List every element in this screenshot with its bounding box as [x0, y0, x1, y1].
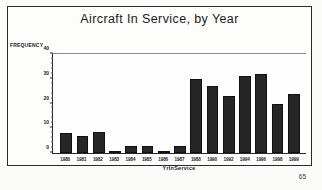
- plot-area: 010203040: [52, 53, 306, 154]
- bar-slot: [91, 54, 107, 153]
- bar: [223, 96, 235, 153]
- x-axis-tick-label: 1981: [73, 157, 89, 162]
- bar-slot: [204, 54, 220, 153]
- x-axis-tick-label: 1984: [122, 157, 138, 162]
- x-axis-tick-label: 1996: [253, 157, 269, 162]
- x-axis-tick-label: 1986: [155, 157, 171, 162]
- bar: [272, 104, 284, 154]
- x-axis-tick-label: 1999: [286, 157, 302, 162]
- x-axis-tick-label: 1994: [237, 157, 253, 162]
- x-axis-title: YrInService: [52, 165, 306, 171]
- bar-slot: [74, 54, 90, 153]
- bar-slot: [139, 54, 155, 153]
- x-axis-tick-label: 1987: [171, 157, 187, 162]
- bar: [239, 76, 251, 153]
- bar-slot: [237, 54, 253, 153]
- bar: [207, 86, 219, 153]
- x-axis-tick-label: 1988: [188, 157, 204, 162]
- x-axis-tick-label: 1992: [220, 157, 236, 162]
- x-axis-tick-label: 1990: [204, 157, 220, 162]
- bar-slot: [269, 54, 285, 153]
- bar: [255, 74, 267, 153]
- bar-slot: [172, 54, 188, 153]
- bar: [190, 79, 202, 153]
- bar-slot: [286, 54, 302, 153]
- x-axis-tick-label: 1998: [269, 157, 285, 162]
- bar: [158, 151, 170, 153]
- bar-slot: [253, 54, 269, 153]
- bar: [93, 132, 105, 153]
- page-number: 65: [299, 173, 306, 180]
- x-axis-tick-label: 1982: [90, 157, 106, 162]
- bar: [109, 151, 121, 153]
- bar: [77, 136, 89, 153]
- figure-frame: Aircraft In Service, by Year FREQUENCY 0…: [7, 6, 312, 166]
- bar-series: [53, 54, 306, 153]
- bar: [288, 94, 300, 153]
- y-axis-label: FREQUENCY: [10, 42, 43, 48]
- chart-title: Aircraft In Service, by Year: [8, 12, 311, 26]
- x-axis-tick-label: 1983: [106, 157, 122, 162]
- bar-slot: [123, 54, 139, 153]
- bar-slot: [156, 54, 172, 153]
- x-axis-tick-labels: 1980198119821983198419851986198719881990…: [52, 157, 306, 162]
- x-axis-tick-label: 1980: [57, 157, 73, 162]
- bar: [142, 146, 154, 153]
- bar: [125, 146, 137, 153]
- bar: [60, 133, 72, 153]
- bar-slot: [107, 54, 123, 153]
- y-axis-tick-label: 40: [43, 45, 53, 51]
- bar-slot: [188, 54, 204, 153]
- scanned-page: Aircraft In Service, by Year FREQUENCY 0…: [0, 0, 322, 190]
- bar: [174, 146, 186, 153]
- bar-slot: [221, 54, 237, 153]
- bar-slot: [58, 54, 74, 153]
- x-axis-tick-label: 1985: [139, 157, 155, 162]
